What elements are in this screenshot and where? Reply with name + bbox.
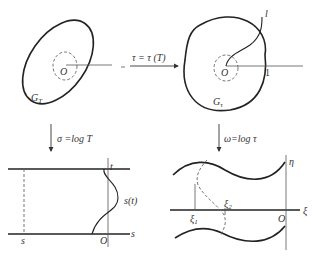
s-point-label: s — [21, 235, 25, 246]
map-omega-label: ω=log τ — [224, 133, 257, 144]
conformal-map-diagram: O GT τ = τ (T) O l 1 Gτ σ =log T ω=log τ… — [0, 0, 316, 265]
origin-label: O — [60, 66, 67, 77]
domain-GT: O GT — [8, 7, 125, 116]
region-label-Gtau: Gτ — [213, 96, 223, 109]
s-axis-label: s — [131, 228, 135, 239]
map-sigma: σ =log T — [51, 124, 93, 151]
eta-label: η — [289, 156, 294, 167]
map-omega: ω=log τ — [219, 124, 257, 151]
map-sigma-label: σ =log T — [57, 133, 93, 144]
xi-axis-label: ξ — [303, 205, 308, 217]
origin-label-omega: O — [278, 213, 285, 224]
s-of-t-label: s(t) — [124, 195, 138, 207]
curve-l-label: l — [265, 8, 268, 19]
strip-sigma: t s(t) s s O — [8, 158, 138, 247]
map-tau-label: τ = τ (T) — [132, 52, 166, 64]
domain-omega: η ξ ξ1 ξ2 O — [170, 155, 308, 250]
unit-label: 1 — [265, 67, 270, 78]
map-tau: τ = τ (T) — [130, 52, 178, 66]
origin-label-sigma: O — [100, 235, 107, 246]
t-label: t — [110, 161, 113, 172]
origin-label-tau: O — [221, 67, 228, 78]
domain-Gtau: O l 1 Gτ — [184, 8, 303, 111]
xi1-label: ξ1 — [190, 213, 198, 226]
